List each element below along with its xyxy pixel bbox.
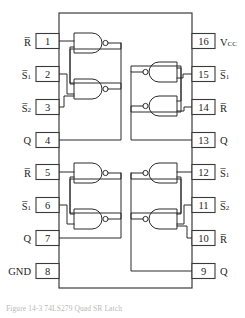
- nand-gate-bl-lower: [74, 209, 102, 229]
- nand-bubble-tr-lower: [143, 103, 148, 108]
- pin-row-5[interactable]: 5 R̅: [24, 165, 59, 180]
- pin-label-7: Q: [23, 233, 31, 244]
- diagram-canvas: 1 R̅ 2 S̅1 3 S̅2 4: [0, 0, 245, 318]
- pin-row-11[interactable]: 11 S̅2: [192, 198, 230, 213]
- pin-label-9: Q: [220, 266, 228, 277]
- pin-number-10: 10: [198, 233, 209, 244]
- nand-bubble-tl-lower: [103, 86, 108, 91]
- pin-label-3: S̅2: [22, 102, 32, 114]
- nand-bubble-br-lower: [143, 216, 148, 221]
- pin-label-10: R̅: [220, 233, 227, 244]
- pin-row-6[interactable]: 6 S̅1: [22, 198, 59, 213]
- pin-label-16: VCC: [220, 36, 237, 48]
- pin-label-6: S̅1: [22, 200, 32, 212]
- ic-pinout-diagram: 1 R̅ 2 S̅1 3 S̅2 4: [0, 0, 245, 318]
- pin-row-9[interactable]: 9 Q: [192, 264, 228, 279]
- ic-package-body: [59, 13, 192, 288]
- pin-label-1: R̅: [24, 36, 31, 47]
- pin-number-12: 12: [198, 167, 209, 178]
- nand-gate-bl-upper: [74, 163, 102, 183]
- nand-bubble-tr-upper: [143, 69, 148, 74]
- pin-row-7[interactable]: 7 Q: [23, 231, 59, 246]
- nand-bubble-bl-lower: [103, 216, 108, 221]
- pin-row-1[interactable]: 1 R̅: [24, 34, 59, 49]
- pin-label-1-text: R̅: [24, 36, 31, 47]
- nand-gate-br-upper: [149, 163, 177, 183]
- pin-row-10[interactable]: 10 R̅: [192, 231, 227, 246]
- nand-bubble-bl-upper: [103, 170, 108, 175]
- pin-number-1: 1: [45, 36, 50, 47]
- pin-label-15: S̅1: [220, 69, 230, 81]
- nand-gate-tr-lower: [149, 96, 177, 116]
- pin-number-6: 6: [45, 200, 50, 211]
- pin-number-15: 15: [198, 69, 209, 80]
- pin-number-7: 7: [45, 233, 50, 244]
- pin-label-11: S̅2: [220, 200, 230, 212]
- pin-row-16[interactable]: 16 VCC: [192, 34, 237, 49]
- pin-label-13: Q: [220, 135, 228, 146]
- pin-row-4[interactable]: 4 Q: [23, 133, 59, 148]
- pin-number-8: 8: [45, 266, 50, 277]
- pin-number-5: 5: [45, 167, 50, 178]
- pin-row-2[interactable]: 2 S̅1: [22, 67, 59, 82]
- pin-number-16: 16: [198, 36, 209, 47]
- pin-row-3[interactable]: 3 S̅2: [22, 100, 59, 115]
- pin-number-14: 14: [198, 102, 209, 113]
- pin-row-13[interactable]: 13 Q: [192, 133, 228, 148]
- figure-caption: Figure 14-3 74LS279 Quad SR Latch: [6, 304, 239, 313]
- pin-row-14[interactable]: 14 R̅: [192, 100, 227, 115]
- pin-label-12: S̅1: [220, 167, 230, 179]
- nand-bubble-tl-upper: [103, 40, 108, 45]
- pin-number-13: 13: [198, 135, 209, 146]
- pin-number-9: 9: [201, 266, 206, 277]
- pin-number-2: 2: [45, 69, 50, 80]
- pin-label-5: R̅: [24, 167, 31, 178]
- pin-number-11: 11: [198, 200, 208, 211]
- pin-group-right: 16 VCC 15 S̅1 14 R̅ 13: [192, 34, 237, 279]
- pin-row-15[interactable]: 15 S̅1: [192, 67, 230, 82]
- nand-gate-tl-lower: [74, 79, 102, 99]
- pin-label-4: Q: [23, 135, 31, 146]
- pin-row-12[interactable]: 12 S̅1: [192, 165, 230, 180]
- pin-label-14: R̅: [220, 102, 227, 113]
- pin-row-8[interactable]: 8 GND: [8, 264, 59, 279]
- pin-group-left: 1 R̅ 2 S̅1 3 S̅2 4: [8, 34, 59, 279]
- nand-gate-tr-upper: [149, 62, 177, 82]
- pin-number-3: 3: [45, 102, 50, 113]
- pin-label-2: S̅1: [22, 69, 32, 81]
- nand-bubble-br-upper: [143, 170, 148, 175]
- nand-gate-br-lower: [149, 209, 177, 229]
- nand-gate-tl-upper: [74, 33, 102, 53]
- pin-number-4: 4: [45, 135, 51, 146]
- pin-label-8: GND: [8, 266, 31, 277]
